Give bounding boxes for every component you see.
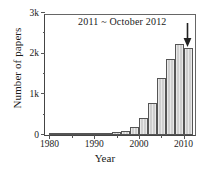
bar <box>139 118 148 135</box>
bar-chart: Number of papers Year 01k2k3k 1980199020… <box>0 0 210 172</box>
plot-area: 01k2k3k 1980199020002010 <box>44 14 196 136</box>
y-tick <box>41 93 45 94</box>
x-tick-label: 1990 <box>85 140 104 150</box>
y-axis-title: Number of papers <box>11 3 23 133</box>
bar <box>184 48 193 135</box>
bar <box>76 133 85 135</box>
annotation-label: 2011 ~ October 2012 <box>78 16 167 27</box>
x-tick-label: 1980 <box>40 140 59 150</box>
x-tick-minor <box>72 135 73 138</box>
bar <box>121 131 130 135</box>
x-tick-minor <box>161 135 162 138</box>
y-tick <box>41 134 45 135</box>
arrow-down-icon <box>183 23 192 47</box>
y-tick-label: 0 <box>34 130 39 140</box>
bar <box>49 133 58 135</box>
bar <box>175 44 184 136</box>
bar <box>130 127 139 135</box>
y-tick-minor <box>43 73 46 74</box>
y-tick-minor <box>43 32 46 33</box>
y-tick-label: 1k <box>30 90 40 100</box>
y-tick-label: 3k <box>30 8 40 18</box>
bar <box>85 133 94 135</box>
y-tick-label: 2k <box>30 49 40 59</box>
bar <box>166 59 175 135</box>
y-tick-minor <box>43 114 46 115</box>
y-tick <box>41 53 45 54</box>
bar <box>148 103 157 135</box>
bar-series <box>45 15 195 135</box>
y-tick <box>41 12 45 13</box>
bar <box>103 133 112 135</box>
x-tick-minor <box>117 135 118 138</box>
x-axis-title: Year <box>0 152 210 164</box>
x-tick-label: 2010 <box>174 140 193 150</box>
bar <box>157 78 166 135</box>
bar <box>58 133 67 135</box>
x-tick-label: 2000 <box>129 140 148 150</box>
bar <box>94 133 103 135</box>
